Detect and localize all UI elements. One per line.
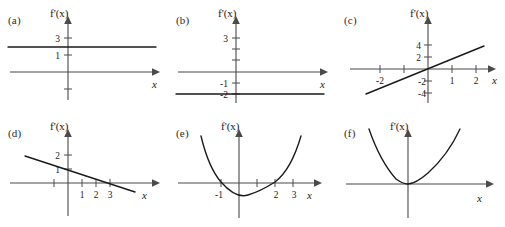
- y-tick-label-3: 3: [223, 34, 228, 44]
- panel-e: (e) -1 2 3 f'(x) x: [168, 113, 336, 226]
- x-axis-arrowhead: [314, 179, 322, 187]
- y-axis-label: f'(x): [218, 7, 237, 20]
- y-tick-label-neg2: -2: [418, 77, 426, 87]
- parabola-curve: [201, 136, 301, 196]
- panel-a-plot: 3 1 f'(x) x: [0, 0, 168, 113]
- panel-d-plot: 2 1 1 2 3 f'(x) x: [0, 113, 168, 227]
- panel-c-label: (c): [344, 14, 357, 26]
- x-tick-label-2: 2: [94, 190, 99, 200]
- x-tick-label-3: 3: [292, 190, 297, 200]
- panel-c: (c) 4 2 -2 -4 -2 1 2 f'(x) x: [336, 0, 504, 113]
- x-tick-label-3: 3: [108, 190, 113, 200]
- panel-e-label: (e): [176, 127, 189, 139]
- panel-b-plot: 3 -1 -2 f'(x) x: [168, 0, 336, 113]
- panel-a-label: (a): [8, 14, 21, 26]
- x-axis-label: x: [491, 74, 497, 86]
- panel-f: (f) f'(x) x: [336, 113, 504, 226]
- x-tick-label-1: 1: [80, 190, 85, 200]
- y-tick-label-neg1: -1: [220, 79, 228, 89]
- panel-e-plot: -1 2 3 f'(x) x: [168, 113, 336, 227]
- x-axis-label: x: [476, 192, 482, 204]
- panel-c-plot: 4 2 -2 -4 -2 1 2 f'(x) x: [336, 0, 505, 113]
- y-tick-label-2: 2: [55, 151, 60, 161]
- x-tick-label-2: 2: [274, 190, 279, 200]
- panel-a: (a) 3 1 f'(x) x: [0, 0, 168, 113]
- panel-d: (d) 2 1 1 2 3 f'(x) x: [0, 113, 168, 226]
- x-axis-arrowhead: [486, 180, 494, 188]
- y-axis-label: f'(x): [50, 120, 69, 133]
- sloped-line: [366, 46, 484, 94]
- y-axis-label: f'(x): [410, 7, 429, 20]
- x-axis-label: x: [306, 189, 312, 201]
- x-tick-label-2: 2: [474, 76, 479, 86]
- y-tick-label-3: 3: [55, 34, 60, 44]
- y-tick-label-4: 4: [416, 41, 421, 51]
- x-tick-label-neg1: -1: [215, 190, 223, 200]
- x-axis-arrowhead: [320, 68, 328, 76]
- y-tick-label-1: 1: [55, 51, 60, 61]
- derivative-graphs-figure: (a) 3 1 f'(x) x (b): [0, 0, 505, 227]
- y-axis-label: f'(x): [221, 120, 240, 133]
- y-axis-label: f'(x): [50, 7, 69, 20]
- x-axis-arrowhead: [152, 179, 160, 187]
- y-axis-label: f'(x): [390, 120, 409, 133]
- panel-f-plot: f'(x) x: [336, 113, 505, 227]
- sloped-line: [25, 156, 135, 192]
- y-tick-label-2: 2: [416, 53, 421, 63]
- x-axis-label: x: [319, 78, 325, 90]
- x-tick-label-1: 1: [450, 76, 455, 86]
- panel-b-label: (b): [176, 14, 189, 26]
- x-axis-arrowhead: [152, 68, 160, 76]
- y-tick-label-neg4: -4: [418, 89, 426, 99]
- panel-b: (b) 3 -1 -2 f'(x) x: [168, 0, 336, 113]
- panel-d-label: (d): [8, 127, 21, 139]
- x-axis-arrowhead: [488, 65, 496, 73]
- x-tick-label-neg2: -2: [376, 76, 384, 86]
- panel-f-label: (f): [344, 127, 356, 139]
- x-axis-label: x: [151, 78, 157, 90]
- parabola-curve: [369, 129, 460, 184]
- x-axis-label: x: [141, 189, 147, 201]
